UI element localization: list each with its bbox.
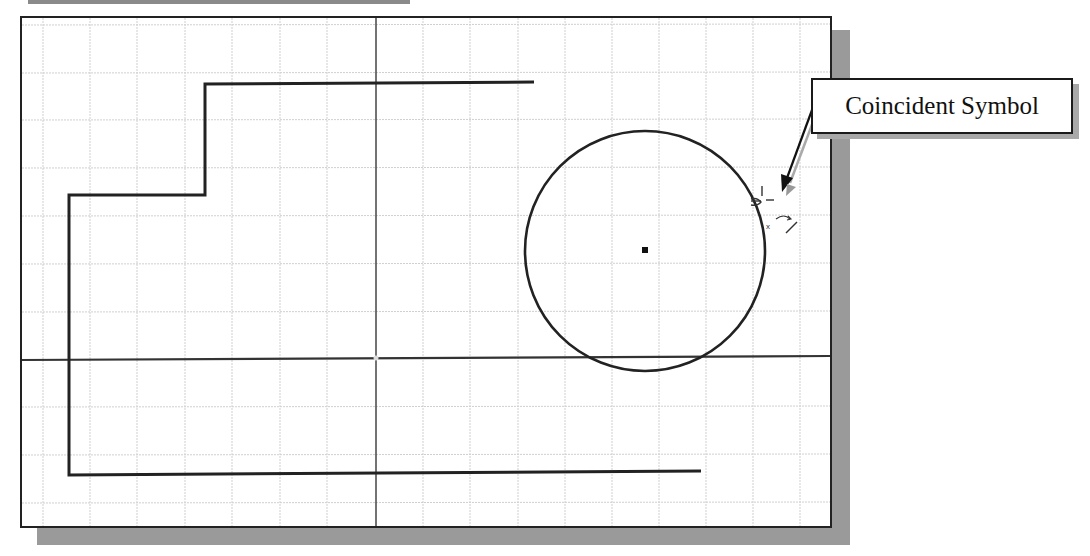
- callout-label: Coincident Symbol: [845, 92, 1039, 120]
- coincident-symbol-callout: Coincident Symbol: [811, 78, 1073, 134]
- horizontal-axis: [22, 356, 832, 360]
- svg-text:x: x: [766, 222, 770, 231]
- origin-point: [374, 356, 379, 361]
- circle-center-point: [642, 247, 648, 253]
- sketch-profile: [69, 82, 701, 475]
- grid: [22, 18, 832, 528]
- axes: [22, 18, 832, 528]
